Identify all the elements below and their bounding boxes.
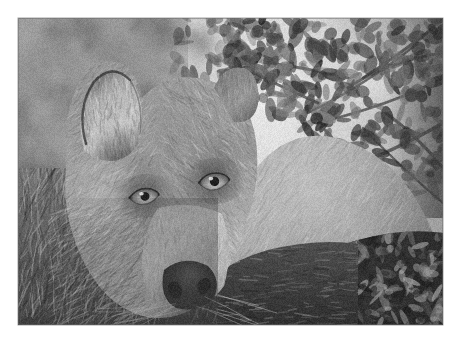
wolf-photograph (18, 18, 443, 325)
photo-image-canvas (18, 18, 443, 325)
photo-page (0, 0, 460, 348)
